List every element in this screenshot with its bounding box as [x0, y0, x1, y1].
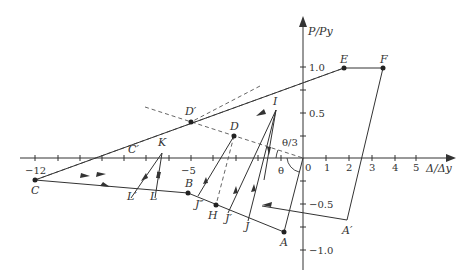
- label-c-prime: C′: [128, 143, 139, 156]
- point-a: [282, 230, 287, 235]
- x-tick-label: 2: [346, 162, 352, 173]
- point-f: [381, 66, 386, 71]
- x-tick-label: −5: [181, 165, 196, 176]
- theta-arc: [287, 158, 299, 172]
- label-k: K: [157, 136, 167, 149]
- x-axis: −12 −5 0 1 2 3 4 5 Δ/Δy: [20, 154, 456, 176]
- label-i: I: [272, 95, 278, 108]
- x-tick-label: −12: [25, 165, 46, 176]
- y-axis-label: P/Py: [307, 25, 334, 38]
- point-e: [342, 66, 347, 71]
- label-j-prime: J′: [223, 212, 232, 225]
- x-tick-label: 5: [413, 162, 419, 173]
- x-tick-label: 0: [305, 162, 311, 173]
- y-tick-label: −0.5: [309, 199, 333, 210]
- label-d: D: [229, 120, 239, 133]
- hysteresis-diagram: −12 −5 0 1 2 3 4 5 Δ/Δy 1.0 0.5 −0.5 −1.…: [0, 0, 474, 280]
- label-e: E: [339, 53, 348, 66]
- point-c: [33, 178, 38, 183]
- x-tick-label: 1: [324, 162, 330, 173]
- arrow-left-icon: [100, 182, 110, 187]
- label-j-doubleprime: J″: [193, 198, 204, 211]
- arrow-up-icon: [233, 186, 238, 194]
- y-tick-label: 1.0: [309, 62, 325, 73]
- point-labels: E F A A′ C C′ B H D D′ I K L L′ J″ J′ J: [31, 53, 388, 249]
- y-axis-arrow-icon: [299, 16, 307, 27]
- label-j: J: [243, 220, 250, 233]
- theta-label: θ: [278, 165, 284, 176]
- label-h: H: [207, 209, 218, 222]
- point-d: [232, 134, 237, 139]
- x-axis-arrow-icon: [446, 154, 456, 162]
- arrow-down-icon: [267, 147, 271, 155]
- x-tick-label: 4: [392, 162, 398, 173]
- point-b: [186, 191, 191, 196]
- theta-third-label: θ/3: [282, 137, 298, 148]
- point-h: [214, 203, 219, 208]
- label-f: F: [379, 53, 388, 66]
- y-tick-label: −1.0: [309, 245, 333, 256]
- label-a-prime: A′: [341, 224, 353, 237]
- label-c: C: [31, 184, 40, 197]
- x-axis-label: Δ/Δy: [425, 162, 453, 175]
- theta-third-arc: [276, 150, 278, 158]
- label-b: B: [184, 177, 193, 190]
- arrow-left-icon: [80, 173, 90, 178]
- y-axis: 1.0 0.5 −0.5 −1.0 P/Py: [299, 16, 334, 270]
- label-a: A: [279, 236, 288, 249]
- x-tick-label: 3: [369, 162, 375, 173]
- arrow-left-icon: [96, 172, 106, 177]
- label-l-prime: L′: [126, 190, 137, 203]
- arrow-up-icon: [251, 184, 256, 192]
- arrow-right-icon: [256, 109, 266, 116]
- label-l: L: [149, 190, 157, 203]
- point-d-prime: [189, 120, 194, 125]
- label-d-prime: D′: [184, 105, 197, 118]
- y-tick-label: 0.5: [309, 108, 325, 119]
